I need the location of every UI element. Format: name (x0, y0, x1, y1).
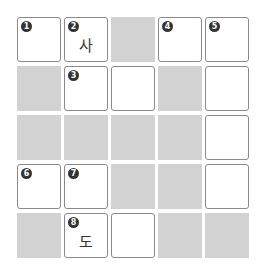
cell-letter: 도 (65, 230, 107, 251)
blocked-cell (111, 17, 155, 62)
blocked-cell (17, 66, 61, 111)
clue-number-badge: 2 (68, 21, 79, 32)
cell-r4-c1[interactable]: 8도 (64, 213, 108, 258)
blocked-cell (64, 115, 108, 160)
cell-r4-c2[interactable] (111, 213, 155, 258)
cell-r1-c1[interactable]: 3 (64, 66, 108, 111)
clue-number-badge: 5 (209, 21, 220, 32)
cell-r0-c4[interactable]: 5 (205, 17, 249, 62)
blocked-cell (205, 213, 249, 258)
cell-r2-c4[interactable] (205, 115, 249, 160)
cell-r1-c4[interactable] (205, 66, 249, 111)
crossword-grid: 1 2사 4 5 3 6 7 8도 (17, 17, 249, 258)
blocked-cell (17, 213, 61, 258)
blocked-cell (158, 213, 202, 258)
clue-number-badge: 1 (21, 21, 32, 32)
cell-r3-c0[interactable]: 6 (17, 164, 61, 209)
blocked-cell (158, 164, 202, 209)
blocked-cell (111, 164, 155, 209)
cell-r3-c1[interactable]: 7 (64, 164, 108, 209)
blocked-cell (17, 115, 61, 160)
cell-r0-c1[interactable]: 2사 (64, 17, 108, 62)
cell-r0-c0[interactable]: 1 (17, 17, 61, 62)
clue-number-badge: 4 (162, 21, 173, 32)
blocked-cell (158, 66, 202, 111)
clue-number-badge: 8 (68, 217, 79, 228)
cell-r1-c2[interactable] (111, 66, 155, 111)
clue-number-badge: 6 (21, 168, 32, 179)
cell-r3-c4[interactable] (205, 164, 249, 209)
clue-number-badge: 7 (68, 168, 79, 179)
blocked-cell (158, 115, 202, 160)
blocked-cell (111, 115, 155, 160)
clue-number-badge: 3 (68, 70, 79, 81)
cell-letter: 사 (65, 34, 107, 55)
cell-r0-c3[interactable]: 4 (158, 17, 202, 62)
